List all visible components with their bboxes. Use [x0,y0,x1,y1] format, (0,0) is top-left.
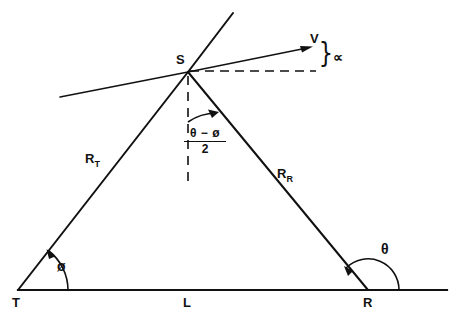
label-alpha-angle: ∝ [333,50,343,64]
label-range-receiver: RR [277,167,293,184]
label-receiver-R: R [363,296,372,309]
label-range-transmitter: RT [85,152,100,169]
arc-phi-arrowhead-icon [47,249,56,259]
label-velocity-V: V [310,32,319,45]
label-range-receiver-subscript: R [286,174,293,184]
bisector-denominator: 2 [184,142,226,156]
diagram-canvas [0,0,463,327]
line-RT-transmitter-to-target [18,72,188,290]
line-RT-extension-above-target [188,13,233,72]
label-range-transmitter-base: R [85,151,94,166]
label-bisector-angle-fraction: θ − ø 2 [184,127,226,156]
label-theta-angle: θ [381,242,389,256]
label-target-S: S [176,53,185,66]
label-baseline-L: L [183,296,191,309]
label-range-receiver-base: R [277,166,286,181]
bisector-numerator: θ − ø [184,127,226,141]
velocity-vector-line [188,48,307,72]
label-transmitter-T: T [12,296,20,309]
geometry-diagram: T R L S V ∝ } ø θ RT RR θ − ø 2 [0,0,463,327]
label-range-transmitter-subscript: T [94,159,100,169]
brace-icon: } [319,40,333,68]
velocity-arrowhead-icon [300,46,313,53]
label-phi-angle: ø [57,259,66,273]
tangent-line-through-target [60,72,188,97]
